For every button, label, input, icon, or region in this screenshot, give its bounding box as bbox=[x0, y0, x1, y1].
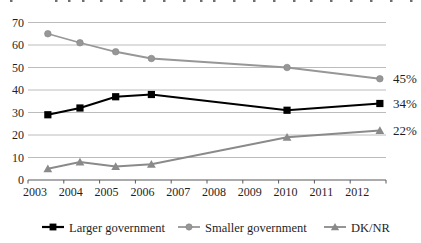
x-axis-tick-label: 2012 bbox=[345, 185, 369, 199]
x-axis-tick-label: 2003 bbox=[23, 185, 47, 199]
x-axis-tick-label: 2007 bbox=[166, 185, 190, 199]
circle-marker bbox=[45, 30, 52, 37]
cropped-title-text-remnant bbox=[330, 0, 333, 2]
square-marker bbox=[112, 93, 119, 100]
cropped-title-text-remnant bbox=[390, 0, 393, 2]
legend-label: DK/NR bbox=[351, 221, 391, 235]
circle-marker bbox=[148, 55, 155, 62]
cropped-title-text-remnant bbox=[200, 0, 203, 2]
cropped-title-text-remnant bbox=[143, 0, 146, 2]
square-marker bbox=[148, 91, 155, 98]
circle-marker bbox=[377, 75, 384, 82]
line-chart-figure: 0102030405060702003200420052006200720082… bbox=[0, 0, 421, 243]
square-marker bbox=[376, 100, 383, 107]
cropped-title-text-remnant bbox=[350, 0, 353, 2]
x-axis-tick-label: 2008 bbox=[202, 185, 226, 199]
x-axis-tick-label: 2011 bbox=[310, 185, 334, 199]
square-marker bbox=[50, 224, 57, 231]
cropped-title-text-remnant bbox=[120, 0, 123, 2]
cropped-title-text-remnant bbox=[273, 0, 276, 2]
y-axis-tick-label: 40 bbox=[12, 83, 24, 97]
cropped-title-text-remnant bbox=[100, 0, 103, 2]
x-axis-tick-label: 2004 bbox=[59, 185, 83, 199]
series-end-value-label: 34% bbox=[393, 96, 417, 111]
x-axis-tick-label: 2009 bbox=[238, 185, 262, 199]
cropped-title-text-remnant bbox=[55, 0, 58, 2]
x-axis-tick-label: 2005 bbox=[95, 185, 119, 199]
cropped-title-text-remnant bbox=[370, 0, 373, 2]
y-axis-tick-label: 20 bbox=[12, 128, 24, 142]
government-preference-trend-chart: 0102030405060702003200420052006200720082… bbox=[0, 0, 421, 243]
y-axis-tick-label: 50 bbox=[12, 61, 24, 75]
x-axis-tick-label: 2010 bbox=[274, 185, 298, 199]
circle-marker bbox=[112, 48, 119, 55]
square-marker bbox=[44, 111, 51, 118]
legend-label: Larger government bbox=[69, 221, 165, 235]
cropped-title-text-remnant bbox=[68, 0, 71, 2]
circle-marker bbox=[186, 224, 192, 230]
cropped-title-text-remnant bbox=[183, 0, 186, 2]
series-end-value-label: 22% bbox=[393, 123, 417, 138]
cropped-title-text-remnant bbox=[310, 0, 313, 2]
series-line-circle bbox=[48, 34, 380, 79]
y-axis-tick-label: 70 bbox=[12, 16, 24, 30]
cropped-title-text-remnant bbox=[82, 0, 85, 2]
circle-marker bbox=[284, 64, 291, 71]
square-marker bbox=[283, 107, 290, 114]
y-axis-tick-label: 30 bbox=[12, 106, 24, 120]
cropped-title-text-remnant bbox=[410, 0, 413, 2]
cropped-title-text-remnant bbox=[293, 0, 296, 2]
square-marker bbox=[76, 104, 83, 111]
cropped-title-text-remnant bbox=[253, 0, 256, 2]
x-axis-tick-label: 2006 bbox=[130, 185, 154, 199]
y-axis-tick-label: 10 bbox=[12, 151, 24, 165]
legend-label: Smaller government bbox=[205, 221, 307, 235]
cropped-title-text-remnant bbox=[213, 0, 216, 2]
series-line-square bbox=[48, 95, 380, 115]
cropped-title-text-remnant bbox=[233, 0, 236, 2]
series-end-value-label: 45% bbox=[393, 71, 417, 86]
circle-marker bbox=[77, 39, 84, 46]
cropped-title-text-remnant bbox=[163, 0, 166, 2]
cropped-title-text-remnant bbox=[10, 0, 13, 2]
series-line-triangle bbox=[48, 131, 380, 169]
y-axis-tick-label: 60 bbox=[12, 38, 24, 52]
